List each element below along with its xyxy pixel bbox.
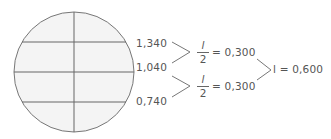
reading-middle: 1,040 — [136, 61, 167, 73]
fraction-2-denominator: 2 — [197, 88, 209, 99]
chevron-1-icon — [172, 42, 190, 63]
reading-lower: 0,740 — [136, 95, 167, 107]
leveling-staff-circle — [14, 12, 134, 132]
chevron-2-icon — [172, 76, 190, 97]
total-result: l = 0,600 — [273, 63, 323, 75]
fraction-1: l 2 — [197, 40, 209, 65]
reading-upper: 1,340 — [136, 37, 167, 49]
fraction-2: l 2 — [197, 74, 209, 99]
difference-2-result: = 0,300 — [212, 80, 256, 92]
fraction-1-numerator: l — [197, 40, 209, 51]
fraction-1-denominator: 2 — [197, 54, 209, 65]
difference-1-result: = 0,300 — [212, 46, 256, 58]
chevron-3-icon — [257, 59, 271, 80]
fraction-2-numerator: l — [197, 74, 209, 85]
